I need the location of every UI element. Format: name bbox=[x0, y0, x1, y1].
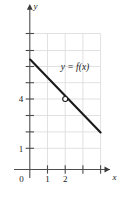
x-tick-label-1: 1 bbox=[45, 174, 50, 184]
curve-equation-label: y = f(x) bbox=[60, 62, 90, 73]
grid-vertical bbox=[48, 34, 101, 170]
coordinate-plane-svg: y x 0 1 2 4 1 y = f(x) bbox=[0, 0, 126, 200]
x-axis-label: x bbox=[112, 172, 117, 182]
graph-figure: y x 0 1 2 4 1 y = f(x) bbox=[0, 0, 126, 200]
y-axis-arrow-icon bbox=[27, 4, 33, 10]
open-circle-point bbox=[63, 97, 68, 102]
y-axis-label: y bbox=[33, 1, 38, 11]
x-axis-arrow-icon bbox=[105, 167, 111, 173]
y-tick-label-1: 1 bbox=[19, 144, 24, 154]
y-tick-label-4: 4 bbox=[19, 94, 24, 104]
origin-label: 0 bbox=[19, 174, 24, 184]
y-axis bbox=[27, 4, 33, 178]
x-tick-label-2: 2 bbox=[63, 174, 68, 184]
x-axis bbox=[14, 167, 110, 173]
